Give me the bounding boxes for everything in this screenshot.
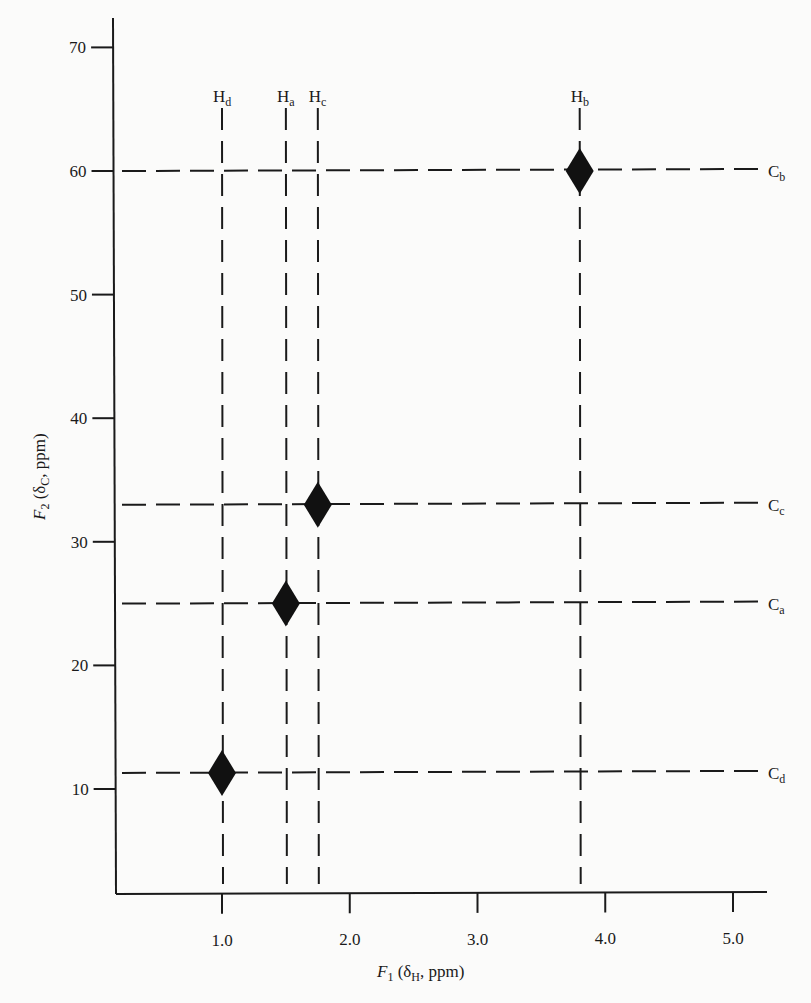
carbon-label: Ca <box>768 595 785 617</box>
hetcor-chart: 10203040506070 1.02.03.04.05.0 HdHaHcHb … <box>0 0 811 1003</box>
proton-label: Hc <box>309 87 327 109</box>
cross-peak-markers <box>208 148 594 796</box>
y-axis-ticks: 10203040506070 <box>69 38 116 799</box>
proton-label: Hb <box>571 87 589 109</box>
x-tick-label: 5.0 <box>722 929 743 948</box>
carbon-guide-line <box>122 602 758 604</box>
y-tick-label: 60 <box>70 162 87 181</box>
carbon-label: Cd <box>768 764 785 786</box>
y-tick-label: 50 <box>70 286 87 305</box>
x-tick-label: 2.0 <box>339 930 360 949</box>
carbon-label: Cb <box>768 162 785 184</box>
y-tick-label: 20 <box>71 656 88 675</box>
y-tick-label: 30 <box>71 533 88 552</box>
carbon-label: Cc <box>768 496 785 518</box>
proton-guide-line <box>286 108 287 884</box>
cross-peak-diamond <box>272 581 300 627</box>
x-tick-label: 3.0 <box>467 930 488 949</box>
proton-label: Hd <box>213 87 231 109</box>
y-axis-title: F2 (δC, ppm) <box>30 433 52 521</box>
x-tick-label: 1.0 <box>211 931 232 950</box>
y-tick-label: 70 <box>69 38 86 57</box>
x-axis-line <box>116 892 767 894</box>
proton-guide-line <box>580 108 581 884</box>
carbon-labels: CdCaCcCb <box>768 162 785 786</box>
proton-labels: HdHaHcHb <box>213 87 589 109</box>
cross-peak-diamond <box>208 750 236 796</box>
x-tick-label: 4.0 <box>595 929 616 948</box>
y-axis-line <box>113 18 116 894</box>
y-tick-label: 40 <box>70 409 87 428</box>
carbon-guide-line <box>122 169 758 171</box>
cross-peak-diamond <box>304 482 332 528</box>
carbon-guide-line <box>122 503 758 505</box>
x-axis-title: F1 (δH, ppm) <box>376 962 464 984</box>
proton-label: Ha <box>277 87 295 109</box>
x-axis-ticks: 1.02.03.04.05.0 <box>211 892 743 950</box>
cross-peak-diamond <box>566 148 594 194</box>
axes <box>113 18 767 894</box>
y-tick-label: 10 <box>72 780 89 799</box>
